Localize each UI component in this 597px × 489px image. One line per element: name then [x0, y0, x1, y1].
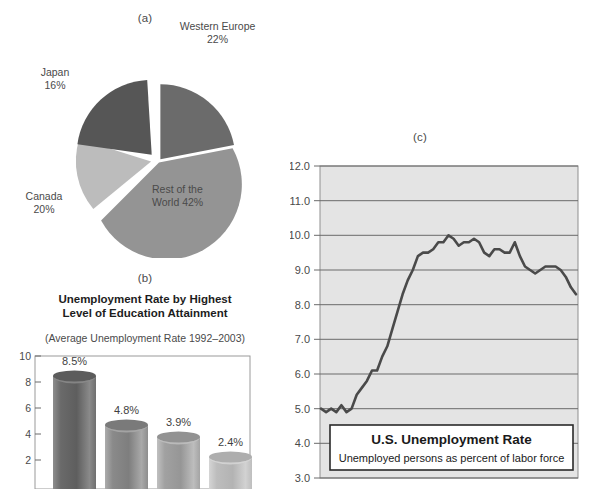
panel-b-caption: (b): [0, 272, 290, 284]
line-ytick-7: 7.0: [295, 333, 310, 345]
panel-c-caption: (c): [290, 131, 550, 143]
bar-item-1: 8.5%: [53, 355, 96, 489]
bar-ytick-2: 2: [25, 454, 31, 466]
bar-ytick-6: 6: [25, 402, 31, 414]
line-ytick-4: 4.0: [295, 437, 310, 449]
bar-value-1: 8.5%: [62, 355, 87, 367]
line-ytick-5: 5.0: [295, 403, 310, 415]
bar-chart-title-line2: Level of Education Attainment: [62, 307, 227, 319]
bar-chart-subtitle: (Average Unemployment Rate 1992–2003): [0, 332, 290, 344]
bar-chart-svg: 10 8 6 4 2 8.5% 4.8%: [0, 352, 290, 489]
callout-title: U.S. Unemployment Rate: [371, 432, 532, 447]
callout-subtitle: Unemployed persons as percent of labor f…: [339, 452, 565, 464]
line-ytick-9: 9.0: [295, 264, 310, 276]
line-chart-callout: U.S. Unemployment Rate Unemployed person…: [330, 425, 573, 470]
bar-ytick-8: 8: [25, 376, 31, 388]
bar-value-4: 2.4%: [218, 436, 243, 448]
line-ytick-10: 10.0: [290, 229, 310, 241]
line-ytick-8: 8.0: [295, 299, 310, 311]
bar-ytick-4: 4: [25, 428, 31, 440]
line-y-axis: 12.0 11.0 10.0 9.0 8.0 7.0 6.0 5.0 4.0 3…: [290, 160, 320, 484]
bar-value-2: 4.8%: [114, 404, 139, 416]
bar-ytick-10: 10: [19, 352, 31, 362]
line-chart-svg: 12.0 11.0 10.0 9.0 8.0 7.0 6.0 5.0 4.0 3…: [290, 150, 597, 489]
bar-chart-title: Unemployment Rate by Highest Level of Ed…: [0, 292, 290, 320]
bar-chart-title-line1: Unemployment Rate by Highest: [58, 293, 231, 305]
line-ytick-11: 11.0: [290, 195, 310, 207]
line-ytick-6: 6.0: [295, 368, 310, 380]
bar-value-3: 3.9%: [166, 416, 191, 428]
line-ytick-12: 12.0: [290, 160, 310, 172]
bar-chart-panel: (b) Unemployment Rate by Highest Level o…: [0, 0, 290, 221]
line-ytick-3: 3.0: [295, 472, 310, 484]
